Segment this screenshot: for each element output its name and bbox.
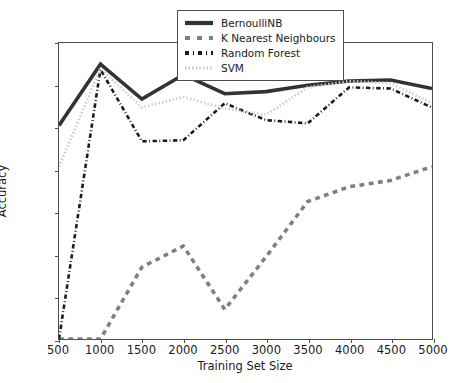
legend-swatch-random-forest	[184, 47, 214, 59]
series-line-random-forest	[59, 69, 432, 339]
x-tick-label: 500	[47, 343, 69, 357]
series-line-k-nearest-neighbours	[59, 167, 432, 339]
x-tick-mark	[101, 339, 102, 343]
y-tick-mark	[55, 213, 59, 214]
x-tick-mark	[226, 339, 227, 343]
y-axis-label: Accuracy	[0, 165, 9, 218]
x-tick-mark	[309, 339, 310, 343]
x-tick-label: 3000	[252, 343, 281, 357]
series-line-svm	[59, 68, 432, 166]
x-tick-mark	[184, 339, 185, 343]
x-tick-label: 4500	[377, 343, 406, 357]
x-axis-label: Training Set Size	[197, 359, 292, 373]
y-tick-mark	[55, 256, 59, 257]
plot-area	[58, 42, 433, 340]
figure: Accuracy Training Set Size 8688909294969…	[0, 0, 459, 383]
legend-item[interactable]: SVM	[184, 60, 336, 75]
x-tick-mark	[142, 339, 143, 343]
legend-label: Random Forest	[221, 47, 300, 59]
y-tick-mark	[55, 86, 59, 87]
x-tick-mark	[267, 339, 268, 343]
legend-swatch-svm	[184, 62, 214, 74]
x-tick-label: 2500	[210, 343, 239, 357]
x-tick-label: 1000	[85, 343, 114, 357]
legend-swatch-bernoullinb	[184, 17, 214, 29]
legend-label: BernoulliNB	[221, 17, 282, 29]
legend-item[interactable]: Random Forest	[184, 45, 336, 60]
series-canvas	[59, 43, 432, 339]
x-tick-mark	[434, 339, 435, 343]
legend-item[interactable]: K Nearest Neighbours	[184, 30, 336, 45]
x-tick-label: 4000	[335, 343, 364, 357]
y-tick-mark	[55, 171, 59, 172]
x-tick-label: 5000	[418, 343, 447, 357]
x-tick-mark	[351, 339, 352, 343]
x-tick-mark	[392, 339, 393, 343]
legend-item[interactable]: BernoulliNB	[184, 15, 336, 30]
legend-swatch-knn	[184, 32, 214, 44]
y-tick-mark	[55, 298, 59, 299]
x-tick-mark	[59, 339, 60, 343]
x-tick-label: 3500	[293, 343, 322, 357]
y-tick-mark	[55, 43, 59, 44]
x-tick-label: 2000	[168, 343, 197, 357]
legend-label: K Nearest Neighbours	[221, 32, 336, 44]
legend: BernoulliNB K Nearest Neighbours Random …	[177, 10, 344, 81]
legend-label: SVM	[221, 62, 244, 74]
y-tick-mark	[55, 128, 59, 129]
x-tick-label: 1500	[127, 343, 156, 357]
